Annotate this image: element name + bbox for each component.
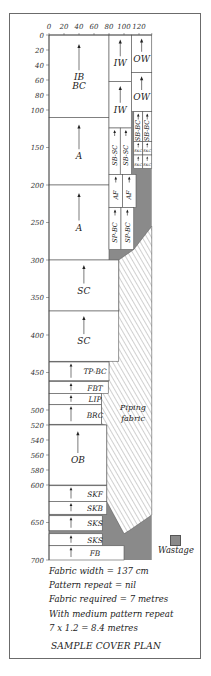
piece-label: IW [113, 105, 128, 115]
pattern-piece: LIP [49, 394, 102, 405]
pattern-piece: SKC [143, 155, 152, 169]
pattern-piece: SC [49, 260, 119, 311]
y-tick-label: 20 [34, 47, 44, 55]
fabric-notes: Fabric width = 137 cm Pattern repeat = n… [49, 564, 173, 635]
pattern-piece: SKF [49, 486, 107, 502]
note-medium-repeat: With medium pattern repeat [49, 607, 173, 621]
piece-label: SKS [87, 519, 103, 528]
piece-label: SKF [87, 490, 104, 499]
pattern-piece: SB-SC [109, 128, 120, 175]
piece-label: SB-SC [122, 145, 130, 166]
pattern-piece: SB-BC [134, 112, 143, 142]
pattern-piece: SKC [134, 155, 143, 169]
piece-label: FBT [86, 384, 104, 393]
piece-label: SKC [134, 149, 142, 153]
piece-label: OB [71, 455, 85, 465]
piece-label: AF [112, 190, 120, 201]
pattern-piece: IW [109, 82, 132, 129]
piece-label: SC [77, 286, 90, 296]
x-tick-label: 60 [90, 23, 99, 31]
pattern-piece: FB [49, 546, 124, 560]
pattern-piece: SKC [143, 142, 152, 156]
y-tick-label: 540 [31, 437, 45, 445]
wastage-legend-label: Wastage [158, 545, 194, 555]
pattern-piece: IW [109, 35, 132, 82]
x-tick-label: 100 [117, 23, 131, 31]
pattern-piece: SC [49, 311, 119, 361]
piece-label: BRC [86, 411, 104, 420]
piece-label: SKC [134, 163, 142, 167]
piece-label: A [75, 223, 83, 233]
pattern-piece: OB [49, 425, 107, 485]
piece-label: SP-BC [124, 222, 132, 243]
y-tick-label: 500 [31, 407, 45, 415]
piece-label: OW [133, 92, 150, 102]
note-pattern-repeat: Pattern repeat = nil [49, 578, 173, 592]
x-tick-label: 0 [47, 23, 52, 31]
x-tick-label: 80 [105, 23, 114, 31]
pattern-piece: SKC [134, 142, 143, 156]
y-tick-label: 580 [31, 467, 45, 475]
pattern-piece: OW [132, 35, 152, 73]
pattern-piece: A [49, 185, 109, 260]
y-tick-label: 350 [31, 294, 45, 302]
y-tick-label: 300 [31, 257, 45, 265]
pattern-piece: AF [123, 175, 137, 208]
y-tick-label: 520 [31, 422, 45, 430]
pattern-piece: TP-BC [49, 362, 109, 381]
note-fabric-width: Fabric width = 137 cm [49, 564, 173, 578]
piping-label: Piping [119, 403, 146, 412]
piece-label: OW [133, 54, 150, 64]
piece-label: SB-SC [111, 145, 119, 166]
y-tick-label: 80 [35, 92, 44, 100]
pattern-piece: SKS [49, 534, 103, 546]
piece-label: SP-BC [111, 222, 119, 243]
y-tick-label: 700 [31, 557, 45, 565]
y-tick-label: 200 [30, 182, 45, 190]
y-tick-label: 250 [30, 219, 45, 227]
y-tick-label: 560 [31, 452, 45, 460]
piece-label: SB-BC [143, 120, 151, 141]
piece-label: TP-BC [83, 367, 107, 376]
pattern-piece: OW [132, 73, 152, 112]
pattern-piece: SB-SC [120, 128, 131, 175]
pattern-piece: BRC [49, 405, 104, 425]
pattern-piece: SKB [49, 502, 107, 515]
y-tick-label: 0 [40, 32, 45, 40]
pattern-piece: SP-BC [109, 208, 121, 250]
y-tick-label: 150 [31, 144, 45, 152]
pattern-piece: AF [109, 175, 123, 208]
piece-label: FB [89, 549, 101, 558]
pattern-piece: SP-BC [121, 208, 134, 250]
y-tick-label: 400 [30, 332, 45, 340]
pattern-piece: SB-BC [143, 112, 152, 142]
y-tick-label: 450 [30, 369, 45, 377]
pattern-piece: SKS [49, 516, 103, 531]
piece-label: BC [71, 81, 86, 91]
y-tick-label: 40 [34, 62, 44, 70]
y-tick-label: 100 [31, 107, 45, 115]
x-tick-label: 40 [74, 23, 84, 31]
pattern-piece: A [49, 118, 109, 186]
piping-label: fabric [120, 414, 145, 423]
y-tick-label: 600 [31, 482, 45, 490]
x-tick-label: 120 [132, 23, 146, 31]
x-tick-label: 20 [59, 23, 69, 31]
piece-label: SC [77, 336, 90, 346]
piece-label: SKC [143, 163, 151, 167]
plan-title: SAMPLE COVER PLAN [51, 641, 161, 651]
piece-label: SB-BC [134, 120, 142, 141]
piece-label: SKB [87, 504, 104, 513]
y-tick-label: 650 [31, 519, 45, 527]
pattern-piece: FBT [49, 382, 108, 394]
piece-label: IW [113, 58, 128, 68]
y-tick-label: 60 [35, 77, 44, 85]
note-fabric-required: Fabric required = 7 metres [49, 592, 173, 606]
piece-label: SKS [87, 536, 103, 545]
piece-label: LIP [88, 395, 103, 404]
piece-label: AF [125, 190, 133, 201]
piece-label: SKC [143, 149, 151, 153]
piece-label: A [75, 151, 83, 161]
note-calculation: 7 x 1.2 = 8.4 metres [49, 621, 173, 635]
pattern-piece: IBBC [49, 35, 109, 118]
